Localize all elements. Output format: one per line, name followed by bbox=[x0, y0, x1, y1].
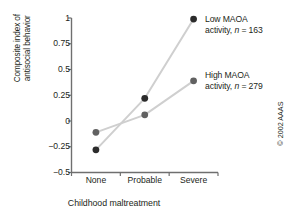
y-tick-label: 0 bbox=[65, 117, 70, 126]
x-tick-label-probable: Probable bbox=[128, 176, 162, 185]
data-point-high-maoa-none bbox=[93, 129, 100, 136]
legend-high-line2-post: = 279 bbox=[239, 81, 263, 91]
y-tick-label: 1 bbox=[65, 14, 70, 23]
y-axis-title-line1: Composite index of bbox=[13, 0, 23, 123]
legend-item-low-maoa: Low MAOA activity, n = 163 bbox=[205, 14, 263, 35]
y-tick-label: 0.75 bbox=[53, 39, 70, 48]
y-axis-title-line2: antisocial behavior bbox=[23, 0, 33, 123]
legend-item-high-maoa: High MAOA activity, n = 279 bbox=[205, 70, 263, 91]
legend-low-line2-pre: activity, bbox=[205, 25, 234, 35]
legend-low-line2-post: = 163 bbox=[239, 25, 263, 35]
y-tick-label: −0.25 bbox=[48, 142, 70, 151]
data-point-high-maoa-severe bbox=[190, 77, 197, 84]
x-tick-labels: NoneProbableSevere bbox=[0, 176, 296, 190]
x-axis-title: Childhood maltreatment bbox=[0, 199, 228, 208]
y-tick-label: 0.25 bbox=[53, 91, 70, 100]
y-axis-title: Composite index of antisocial behavior bbox=[13, 0, 33, 123]
copyright-notice: © 2002 AAAS bbox=[277, 94, 284, 154]
data-point-low-maoa-none bbox=[93, 146, 100, 153]
legend-low-line1: Low MAOA bbox=[205, 14, 248, 24]
y-tick-label: 0.5 bbox=[58, 65, 70, 74]
data-point-low-maoa-probable bbox=[141, 95, 148, 102]
x-tick-label-severe: Severe bbox=[180, 176, 207, 185]
data-point-high-maoa-probable bbox=[141, 111, 148, 118]
legend-high-line2-pre: activity, bbox=[205, 81, 234, 91]
data-point-low-maoa-severe bbox=[190, 16, 197, 23]
x-tick-label-none: None bbox=[86, 176, 107, 185]
legend-high-line1: High MAOA bbox=[205, 70, 249, 80]
